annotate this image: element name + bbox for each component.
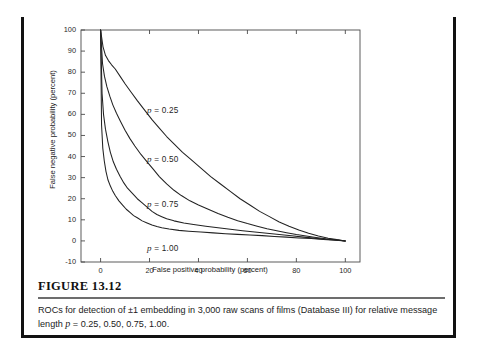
curve-label-value: = 0.50 bbox=[152, 155, 179, 164]
x-axis-title: False positive probability (percent) bbox=[60, 265, 360, 274]
curve-label-3: p = 0.75 bbox=[147, 199, 178, 209]
curve-label-1: p = 0.25 bbox=[147, 105, 178, 115]
chart-region: -100102030405060708090100 020406080100 F… bbox=[24, 17, 459, 275]
y-tick-label: 10 bbox=[45, 216, 76, 223]
y-tick-label: 100 bbox=[45, 26, 76, 33]
curve-label-value: = 0.75 bbox=[152, 200, 179, 209]
curve-label-4: p = 1.00 bbox=[147, 243, 178, 253]
y-axis-title: False negative probability (percent) bbox=[48, 60, 57, 200]
roc-curve bbox=[101, 30, 346, 241]
y-tick-label: 90 bbox=[45, 47, 76, 54]
roc-curve bbox=[101, 30, 346, 241]
roc-plot bbox=[24, 17, 459, 275]
figure-caption: ROCs for detection of ±1 embedding in 3,… bbox=[38, 304, 445, 331]
figure-screenshot: -100102030405060708090100 020406080100 F… bbox=[0, 0, 481, 357]
curve-label-2: p = 0.50 bbox=[147, 154, 178, 164]
plot-frame bbox=[81, 30, 360, 262]
caption-area: FIGURE 13.12 ROCs for detection of ±1 em… bbox=[24, 275, 459, 335]
figure-number: FIGURE 13.12 bbox=[38, 275, 445, 294]
figure-box: -100102030405060708090100 020406080100 F… bbox=[21, 17, 456, 338]
caption-text-part2: = 0.25, 0.50, 0.75, 1.00. bbox=[70, 319, 169, 329]
curve-label-value: = 1.00 bbox=[152, 244, 179, 253]
y-tick-label: 0 bbox=[45, 237, 76, 244]
caption-divider bbox=[38, 297, 445, 299]
curve-label-value: = 0.25 bbox=[152, 106, 179, 115]
roc-curve bbox=[101, 30, 346, 241]
roc-curve bbox=[101, 30, 346, 241]
